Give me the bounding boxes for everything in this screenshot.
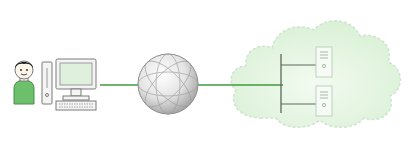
- desktop-computer-icon: [42, 59, 96, 110]
- globe-icon: [138, 54, 198, 114]
- person-icon: [14, 61, 34, 104]
- server-icon: [316, 86, 332, 116]
- network-diagram: [0, 0, 411, 145]
- server-icon: [316, 47, 332, 77]
